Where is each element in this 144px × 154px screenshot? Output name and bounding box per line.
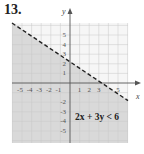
svg-text:4: 4 (63, 41, 67, 49)
svg-text:2: 2 (87, 86, 91, 94)
svg-text:-5: -5 (17, 86, 23, 94)
svg-text:1: 1 (63, 69, 67, 77)
y-axis-label: y (61, 7, 66, 16)
svg-text:-4: -4 (60, 117, 66, 125)
svg-text:5: 5 (116, 86, 120, 94)
svg-text:-3: -3 (60, 108, 66, 116)
inequality-graph: y x -5 -4 -3 -2 -1 1 2 3 5 5 4 3 2 1 -2 … (0, 0, 144, 154)
svg-text:2: 2 (63, 60, 67, 68)
svg-text:-2: -2 (60, 98, 66, 106)
svg-text:1: 1 (78, 86, 82, 94)
svg-text:-2: -2 (46, 86, 52, 94)
svg-text:-5: -5 (60, 127, 66, 135)
inequality-label: 2x + 3y < 6 (75, 112, 119, 122)
svg-text:3: 3 (97, 86, 101, 94)
svg-text:-3: -3 (36, 86, 42, 94)
x-axis-label: x (135, 92, 140, 101)
svg-text:3: 3 (63, 50, 67, 58)
svg-text:5: 5 (63, 31, 67, 39)
svg-text:-4: -4 (27, 86, 33, 94)
svg-text:-1: -1 (55, 86, 61, 94)
y-axis-arrow-icon (68, 8, 73, 14)
x-axis-arrow-icon (135, 81, 141, 86)
